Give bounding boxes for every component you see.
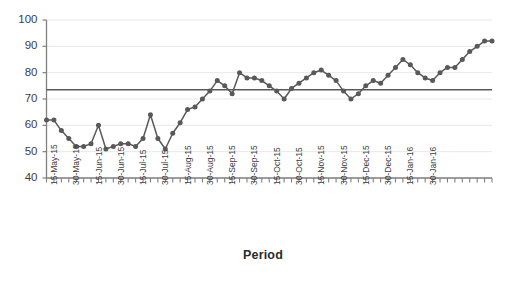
line-chart: 405060708090100 15-May-1530-May-1515-Jun… xyxy=(0,0,526,281)
data-point xyxy=(311,70,316,75)
data-point xyxy=(386,73,391,78)
data-point xyxy=(222,83,227,88)
y-tick-label: 40 xyxy=(8,172,38,184)
data-point xyxy=(89,141,94,146)
y-tick-label: 60 xyxy=(8,119,38,131)
y-tick-label: 100 xyxy=(8,14,38,26)
data-point xyxy=(289,86,294,91)
x-tick-label: 15-Jul-15 xyxy=(139,150,148,185)
data-point xyxy=(81,144,86,149)
data-point xyxy=(371,78,376,83)
data-point xyxy=(438,70,443,75)
y-tick-label: 90 xyxy=(8,40,38,52)
data-point xyxy=(296,81,301,86)
data-point xyxy=(482,39,487,44)
data-point xyxy=(66,136,71,141)
data-point xyxy=(207,89,212,94)
data-point xyxy=(200,97,205,102)
y-tick-label: 50 xyxy=(8,146,38,158)
series-line xyxy=(47,41,493,149)
data-point xyxy=(363,83,368,88)
x-tick-label: 30-Aug-15 xyxy=(206,145,215,185)
x-tick-label: 15-Oct-15 xyxy=(273,147,282,185)
data-point xyxy=(252,75,257,80)
x-tick-label: 30-Oct-15 xyxy=(295,147,304,185)
series-markers xyxy=(44,39,495,152)
data-point xyxy=(103,147,108,152)
data-point xyxy=(334,78,339,83)
data-point xyxy=(356,91,361,96)
data-point xyxy=(170,131,175,136)
x-tick-label: 15-Sep-15 xyxy=(228,145,237,185)
x-axis-ticks xyxy=(47,178,493,183)
data-point xyxy=(267,83,272,88)
x-tick-label: 30-Jul-15 xyxy=(161,150,170,185)
data-point xyxy=(467,49,472,54)
y-tick-label: 70 xyxy=(8,93,38,105)
data-point xyxy=(319,68,324,73)
data-point xyxy=(141,136,146,141)
x-tick-label: 15-May-15 xyxy=(50,144,59,185)
data-point xyxy=(326,73,331,78)
data-point xyxy=(282,97,287,102)
data-point xyxy=(378,81,383,86)
plot-area xyxy=(0,0,526,281)
x-tick-label: 30-May-15 xyxy=(72,144,81,185)
data-point xyxy=(423,75,428,80)
x-tick-label: 30-Sep-15 xyxy=(250,145,259,185)
series-polyline xyxy=(47,41,493,149)
data-point xyxy=(178,120,183,125)
gridlines xyxy=(47,20,493,178)
data-point xyxy=(230,91,235,96)
data-point xyxy=(475,44,480,49)
data-point xyxy=(400,57,405,62)
data-point xyxy=(341,89,346,94)
x-tick-label: 30-Dec-15 xyxy=(384,145,393,185)
data-point xyxy=(44,118,49,123)
data-point xyxy=(274,89,279,94)
x-tick-label: 15-Aug-15 xyxy=(184,145,193,185)
data-point xyxy=(237,70,242,75)
x-axis-title: Period xyxy=(0,248,526,262)
data-point xyxy=(490,39,495,44)
x-tick-label: 15-Jun-15 xyxy=(95,147,104,185)
x-tick-label: 30-Jun-15 xyxy=(117,147,126,185)
data-point xyxy=(304,75,309,80)
data-point xyxy=(118,141,123,146)
x-tick-label: 15-Dec-15 xyxy=(362,145,371,185)
x-tick-label: 30-Jan-16 xyxy=(429,147,438,185)
x-tick-label: 15-Jan-16 xyxy=(406,147,415,185)
data-point xyxy=(452,65,457,70)
data-point xyxy=(155,136,160,141)
data-point xyxy=(96,123,101,128)
data-point xyxy=(259,78,264,83)
data-point xyxy=(393,65,398,70)
x-tick-label: 15-Nov-15 xyxy=(317,145,326,185)
data-point xyxy=(445,65,450,70)
data-point xyxy=(51,118,56,123)
data-point xyxy=(185,107,190,112)
x-tick-label: 30-Nov-15 xyxy=(340,145,349,185)
data-point xyxy=(408,62,413,67)
data-point xyxy=(59,128,64,133)
data-point xyxy=(460,57,465,62)
data-point xyxy=(133,144,138,149)
data-point xyxy=(244,75,249,80)
y-tick-label: 80 xyxy=(8,67,38,79)
data-point xyxy=(415,70,420,75)
data-point xyxy=(148,112,153,117)
data-point xyxy=(215,78,220,83)
data-point xyxy=(126,141,131,146)
data-point xyxy=(430,78,435,83)
data-point xyxy=(193,104,198,109)
data-point xyxy=(348,97,353,102)
